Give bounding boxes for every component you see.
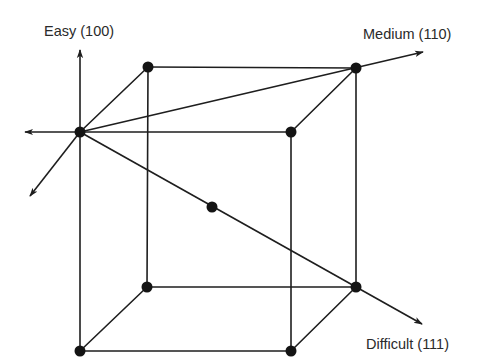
node-front-bottom-left: [75, 346, 86, 357]
difficult-label: Difficult (111): [366, 336, 449, 352]
node-front-bottom-right: [286, 346, 297, 357]
node-center: [207, 202, 218, 213]
cube-diagram: Easy (100) Medium (110) Difficult (111): [0, 0, 495, 364]
edge-connect-top-right: [291, 68, 356, 132]
node-back-top-left: [143, 62, 154, 73]
difficult-axis-arrow: [80, 132, 422, 324]
node-back-bottom-right: [351, 282, 362, 293]
edge-back-top: [148, 67, 356, 68]
node-front-top-left: [75, 127, 86, 138]
edge-back-left: [147, 67, 148, 287]
edge-connect-bottom-right: [291, 287, 356, 351]
node-back-top-right: [351, 63, 362, 74]
medium-axis-arrow: [80, 52, 423, 132]
node-back-bottom-left: [142, 282, 153, 293]
edge-connect-bottom-left: [80, 287, 147, 351]
axes: [25, 50, 423, 324]
edge-connect-top-left: [80, 67, 148, 132]
easy-label: Easy (100): [44, 23, 114, 39]
node-front-top-right: [286, 127, 297, 138]
medium-label: Medium (110): [363, 26, 451, 42]
down-left-axis-arrow: [30, 132, 80, 196]
